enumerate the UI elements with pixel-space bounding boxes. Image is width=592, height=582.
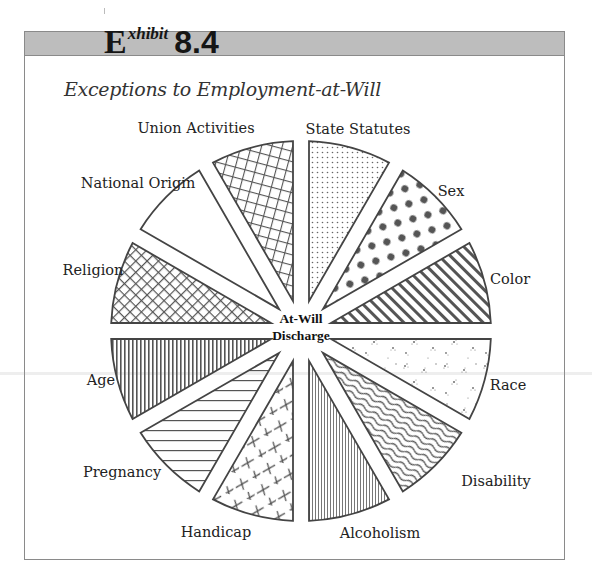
label-race: Race bbox=[490, 377, 527, 393]
label-state-statutes: State Statutes bbox=[306, 121, 411, 137]
label-pregnancy: Pregnancy bbox=[83, 464, 161, 480]
exploded-pie-chart bbox=[0, 0, 592, 582]
label-sex: Sex bbox=[438, 183, 465, 199]
label-color: Color bbox=[490, 271, 530, 287]
center-label-line2: Discharge bbox=[272, 327, 330, 344]
label-handicap: Handicap bbox=[181, 524, 252, 540]
label-age: Age bbox=[87, 372, 115, 388]
label-alcoholism: Alcoholism bbox=[340, 525, 421, 541]
label-national-origin: National Origin bbox=[81, 175, 195, 191]
label-religion: Religion bbox=[63, 262, 124, 278]
center-label: At-Will Discharge bbox=[272, 310, 330, 344]
center-label-line1: At-Will bbox=[272, 310, 330, 327]
label-disability: Disability bbox=[461, 473, 531, 489]
label-union-activities: Union Activities bbox=[137, 120, 254, 136]
